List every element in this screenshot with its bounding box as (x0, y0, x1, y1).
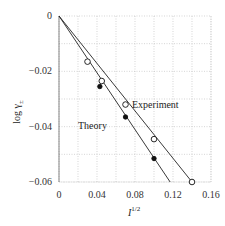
y-tick-3: −0.06 (29, 176, 52, 187)
y-tick-labels: 0 −0.02 −0.04 −0.06 (29, 10, 52, 187)
x-tick-3: 0.12 (164, 189, 182, 200)
experiment-point (99, 78, 105, 84)
theory-label: Theory (78, 120, 107, 131)
x-tick-4: 0.16 (202, 189, 220, 200)
x-tick-labels: 0 0.04 0.08 0.12 0.16 (57, 189, 220, 200)
theory-point (98, 84, 102, 88)
x-tick-2: 0.08 (126, 189, 144, 200)
chart: 0 0.04 0.08 0.12 0.16 0 −0.02 −0.04 −0.0… (0, 0, 225, 226)
experiment-point (85, 59, 91, 65)
theory-point (123, 115, 127, 119)
experiment-point (151, 136, 157, 142)
theory-point (152, 156, 156, 160)
y-tick-0: 0 (47, 10, 52, 21)
x-tick-0: 0 (57, 189, 62, 200)
experiment-point (189, 179, 195, 185)
y-tick-2: −0.04 (29, 121, 52, 132)
y-axis-label: log γ± (11, 100, 25, 124)
y-tick-1: −0.02 (29, 65, 52, 76)
x-tick-1: 0.04 (88, 189, 106, 200)
x-axis-label: I1/2 (127, 205, 141, 218)
experiment-point (123, 102, 129, 108)
experiment-label: Experiment (132, 99, 179, 110)
